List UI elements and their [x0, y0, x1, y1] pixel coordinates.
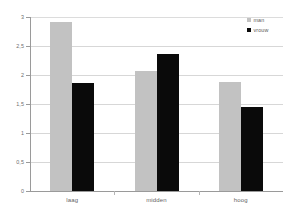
legend-item-man[interactable]: man [247, 16, 299, 24]
y-tick-label: 2 [2, 72, 24, 78]
x-tick-label-laag: laag [42, 196, 102, 204]
legend-swatch-icon-vrouw [247, 28, 251, 32]
bar-laag-man [50, 22, 72, 191]
legend-label: vrouw [254, 27, 269, 33]
plot-area [30, 17, 283, 191]
chart-legend: manvrouw [247, 16, 299, 36]
x-tick-label-midden: midden [127, 196, 187, 204]
bar-midden-man [135, 71, 157, 191]
x-tick-label-hoog: hoog [211, 196, 271, 204]
legend-item-vrouw[interactable]: vrouw [247, 26, 299, 34]
bar-hoog-man [219, 82, 241, 191]
legend-swatch-icon-man [247, 18, 251, 22]
y-tick-label: 0 [2, 188, 24, 194]
y-tick-label: 3 [2, 14, 24, 20]
bar-midden-vrouw [157, 54, 179, 191]
legend-label: man [254, 17, 265, 23]
y-tick-label: 2,5 [2, 43, 24, 49]
bar-hoog-vrouw [241, 107, 263, 191]
y-tick-label: 1,5 [2, 101, 24, 107]
x-tick-mark [199, 191, 200, 195]
x-axis-line [30, 191, 283, 192]
y-axis-labels: 00,511,522,53 [0, 0, 24, 212]
y-tick-label: 1 [2, 130, 24, 136]
y-tick-label: 0,5 [2, 159, 24, 165]
x-tick-mark [114, 191, 115, 195]
bar-chart: 00,511,522,53 laagmiddenhoog manvrouw [0, 0, 305, 212]
bar-laag-vrouw [72, 83, 94, 191]
